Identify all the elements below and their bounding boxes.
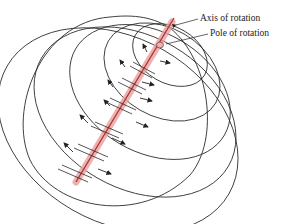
axis-leader [176, 19, 198, 25]
axis-label: Axis of rotation [200, 13, 260, 23]
pole-marker [157, 42, 164, 48]
pole-label: Pole of rotation [210, 28, 269, 38]
